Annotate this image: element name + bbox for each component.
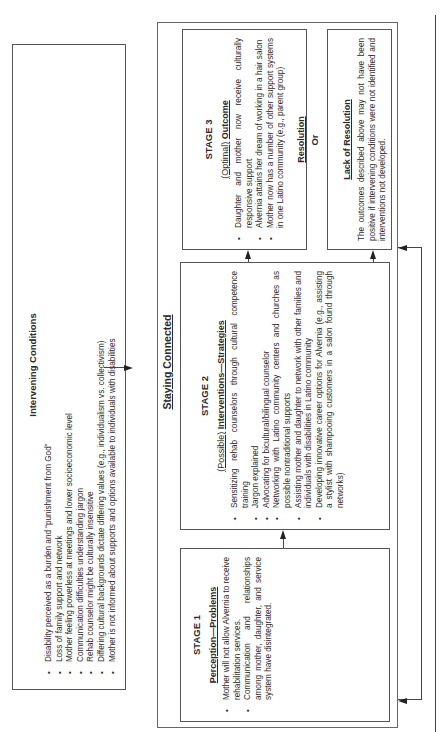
feedback-line-horizontal <box>421 247 422 700</box>
intervening-conditions-title: Intervening Conditions <box>27 55 38 675</box>
stage1-heading: STAGE 1 <box>191 557 202 713</box>
diagram-canvas: Intervening Conditions Disability percei… <box>0 0 440 732</box>
stage2-subtitle-main: Interventions—Strategies <box>216 320 226 429</box>
list-item: Rehab counselor might be culturally inse… <box>86 55 97 675</box>
list-item: Alvernia attains her dream of working in… <box>255 38 266 241</box>
stage3-heading: STAGE 3 <box>203 38 214 241</box>
feedback-arrow-up-right <box>398 245 407 251</box>
stage1-list: Mother will not allow Alvernia to receiv… <box>222 557 275 713</box>
stage1-panel: STAGE 1 Perception—Problems Mother will … <box>180 548 390 722</box>
list-item: Developing innovative career options for… <box>315 271 347 521</box>
stage3-panel: STAGE 3 (Optimal) Outcome Daughter and m… <box>182 29 307 250</box>
lack-of-resolution-title: Lack of Resolution <box>342 38 352 241</box>
lack-of-resolution-panel: Lack of Resolution The outcomes describe… <box>327 29 392 250</box>
list-item: Mother now has a number of other support… <box>266 38 287 241</box>
intervening-to-staying-arrow <box>104 364 134 371</box>
list-item: Advocating for bicultural/bilingual coun… <box>262 271 273 521</box>
list-item: Mother feeling powerless at meetings and… <box>65 55 76 675</box>
stage3-subtitle-main: Outcome <box>220 100 230 139</box>
stage1-subtitle: Perception—Problems <box>208 557 218 713</box>
list-item: Loss of family support and network <box>55 55 66 675</box>
stage3-list: Daughter and mother now receive cultural… <box>234 38 287 241</box>
list-item: Disability perceived as a burden and “pu… <box>44 55 55 675</box>
list-item: Communication and relationships among mo… <box>243 557 275 713</box>
stage2-panel: STAGE 2 (Possible) Interventions—Strateg… <box>180 262 390 530</box>
list-item: Mother will not allow Alvernia to receiv… <box>222 557 243 713</box>
list-item: Networking with Latino community centers… <box>272 271 293 521</box>
stage2-subtitle-prefix: (Possible) <box>216 432 226 472</box>
lack-of-resolution-text: The outcomes described above may not hav… <box>357 38 389 241</box>
feedback-arrow-up-left <box>398 698 407 704</box>
resolution-label: Resolution <box>296 38 306 241</box>
stage3-subtitle-prefix: (Optimal) <box>220 142 230 179</box>
list-item: Jargon explained <box>251 271 262 521</box>
stage1-to-stage2-arrow <box>280 528 288 548</box>
list-item: Daughter and mother now receive cultural… <box>234 38 255 241</box>
list-item: Assisting mother and daughter to network… <box>294 271 315 521</box>
staying-connected-title: Staying Connected <box>161 282 173 442</box>
list-item: Sensitizing rehab counselors through cul… <box>230 271 251 521</box>
stage2-subtitle: (Possible) Interventions—Strategies <box>216 271 226 521</box>
list-item: Communication difficulties understanding… <box>76 55 87 675</box>
stage2-list: Sensitizing rehab counselors through cul… <box>230 271 347 521</box>
outer-rule <box>435 15 436 732</box>
or-label: Or <box>309 120 320 160</box>
stage3-subtitle: (Optimal) Outcome <box>220 38 230 241</box>
stage2-heading: STAGE 2 <box>199 271 210 521</box>
stage2-to-lack-arrow <box>370 246 378 262</box>
